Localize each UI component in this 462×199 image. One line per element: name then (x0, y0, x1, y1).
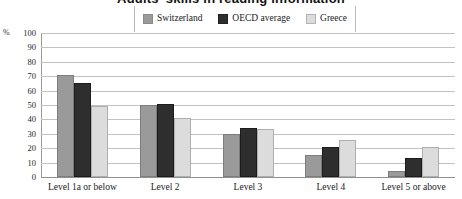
y-axis-unit-label: % (3, 28, 10, 37)
y-axis-tick-label: 100 (23, 28, 36, 38)
y-axis-tick-label: 20 (28, 143, 37, 153)
y-axis-tick-label: 40 (28, 114, 37, 124)
bar[interactable] (388, 171, 405, 177)
legend-item-oecd-average[interactable]: OECD average (218, 14, 290, 24)
x-axis-category-label: Level 3 (234, 182, 263, 192)
bar[interactable] (322, 147, 339, 177)
chart-legend: Switzerland OECD average Greece (134, 6, 356, 32)
bar[interactable] (91, 106, 108, 177)
gridline: 0 (41, 177, 455, 178)
bar-chart: Adults' skills in reading information Sw… (0, 0, 462, 199)
bar[interactable] (422, 147, 439, 177)
y-axis-tick-label: 60 (28, 86, 37, 96)
x-axis-category-label: Level 2 (151, 182, 180, 192)
bar[interactable] (57, 75, 74, 177)
bar[interactable] (157, 104, 174, 177)
legend-label-oecd-average: OECD average (232, 14, 290, 24)
legend-swatch-icon-switzerland (143, 14, 153, 24)
legend-swatch-icon-greece (306, 14, 316, 24)
bar[interactable] (339, 140, 356, 177)
legend-swatch-icon-oecd-average (218, 14, 228, 24)
bar-group (388, 33, 439, 177)
y-axis-tick-label: 30 (28, 129, 37, 139)
y-axis-tick-label: 70 (28, 71, 37, 81)
bar-group (223, 33, 274, 177)
bar[interactable] (174, 118, 191, 177)
plot-area: 1009080706050403020100 (41, 33, 455, 177)
x-axis-labels: Level 1a or belowLevel 2Level 3Level 4Le… (41, 182, 455, 198)
bar-group (305, 33, 356, 177)
y-axis-tick-label: 10 (28, 158, 37, 168)
x-axis-category-label: Level 5 or above (382, 182, 446, 192)
bar-group (140, 33, 191, 177)
legend-label-switzerland: Switzerland (157, 14, 202, 24)
legend-item-switzerland[interactable]: Switzerland (143, 14, 202, 24)
bar[interactable] (257, 129, 274, 177)
x-axis-category-label: Level 1a or below (48, 182, 117, 192)
y-axis-tick-label: 80 (28, 57, 37, 67)
y-axis-tick-label: 90 (28, 42, 37, 52)
bar[interactable] (305, 155, 322, 177)
y-axis-tick-label: 0 (32, 172, 36, 182)
bar[interactable] (140, 105, 157, 177)
legend-label-greece: Greece (320, 14, 347, 24)
bar-group (57, 33, 108, 177)
y-axis-tick-label: 50 (28, 100, 37, 110)
bar[interactable] (405, 158, 422, 177)
bar[interactable] (223, 134, 240, 177)
bar[interactable] (74, 83, 91, 177)
x-axis-category-label: Level 4 (316, 182, 345, 192)
legend-item-greece[interactable]: Greece (306, 14, 347, 24)
bar[interactable] (240, 128, 257, 177)
